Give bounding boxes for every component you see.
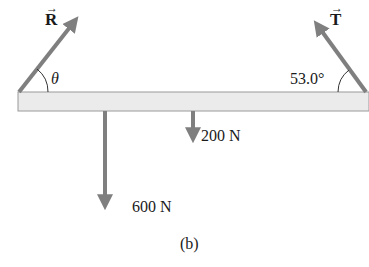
label-600n: 600 N — [132, 198, 172, 216]
angle-53-arc — [338, 70, 349, 92]
label-200n: 200 N — [201, 127, 241, 145]
label-53-degrees: 53.0° — [290, 70, 324, 88]
theta-angle-arc — [37, 69, 48, 92]
beam — [18, 92, 369, 111]
free-body-diagram — [0, 0, 369, 267]
vector-arrow-icon: → — [46, 1, 58, 16]
label-r: → R — [45, 10, 57, 30]
label-theta: θ — [51, 70, 59, 88]
force-t-arrow — [318, 26, 366, 92]
vector-arrow-icon: → — [331, 1, 343, 16]
caption: (b) — [180, 235, 199, 253]
label-t: → T — [330, 10, 341, 30]
